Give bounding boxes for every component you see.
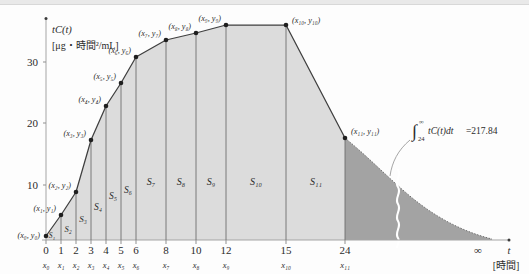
x-tick-symbol: x₄ — [102, 260, 110, 270]
area-label: S₁ — [49, 231, 56, 240]
y-tick-label-30: 30 — [27, 56, 39, 68]
area-label: S₈ — [177, 176, 186, 187]
integral-integrand: tC(t)dt — [428, 126, 454, 137]
x-axis-arrow-dot — [508, 239, 511, 242]
data-point — [284, 23, 289, 28]
data-point — [74, 190, 79, 195]
area-label: S₇ — [147, 176, 156, 187]
point-label: (x₅, y₅) — [93, 72, 116, 81]
y-tick-label-10: 10 — [27, 179, 39, 191]
area-label: S₁₁ — [310, 176, 322, 187]
integral-value: =217.84 — [466, 126, 498, 136]
x-tick-symbol: x₀ — [42, 260, 50, 270]
point-label: (x₇, y₇) — [138, 29, 161, 38]
point-label: (x₉, y₉) — [198, 14, 221, 23]
x-axis-unit: [時間] — [493, 260, 520, 271]
figure-root: tC(t) [μg・時間²/mL] 10 20 30 0 1 2 3 4 5 6… — [0, 0, 529, 274]
data-point — [59, 213, 64, 218]
x-tick-label: 12 — [221, 244, 232, 256]
x-tick-label: 4 — [103, 244, 109, 256]
x-tick-label: 5 — [118, 244, 124, 256]
x-tick-symbol: x₉ — [222, 260, 230, 270]
x-tick-symbol: x₁ — [57, 260, 65, 270]
x-axis-title: t — [508, 245, 512, 256]
point-label: (x₀, y₀) — [17, 231, 40, 240]
tail-fill-dark — [345, 138, 492, 240]
data-point — [134, 55, 139, 60]
x-tick-symbols: x₀ x₁ x₂ x₃ x₄ x₅ x₆ x₇ x₈ x₉ x₁₀ x₁₁ — [42, 260, 350, 270]
integral-annotation-group: ∫ ∞ 24 tC(t)dt =217.84 — [390, 118, 498, 176]
point-label: (x₈, y₈) — [168, 22, 191, 31]
area-label: S₃ — [79, 214, 87, 224]
data-point — [44, 234, 49, 239]
point-label: (x₃, y₃) — [63, 129, 86, 138]
x-tick-symbol: x₁₁ — [339, 260, 350, 270]
x-tick-symbol: x₃ — [87, 260, 95, 270]
point-label: (x₆, y₆) — [108, 46, 131, 55]
x-tick-label: 0 — [43, 244, 49, 256]
point-label: (x₄, y₄) — [78, 95, 101, 104]
area-label: S₄ — [94, 202, 102, 212]
data-point — [164, 38, 169, 43]
x-tick-label: 8 — [163, 244, 169, 256]
x-tick-label: 1 — [58, 244, 64, 256]
x-tick-symbol: x₂ — [72, 260, 80, 270]
x-tick-label: 6 — [133, 244, 139, 256]
point-label: (x₁₁, y₁₁) — [351, 127, 379, 136]
x-tick-symbol: x₁₀ — [280, 260, 291, 270]
data-point — [89, 138, 94, 143]
y-axis-title: tC(t) — [52, 24, 72, 36]
integral-sign-glyph: ∫ — [411, 121, 418, 142]
x-tick-symbol: x₅ — [117, 260, 125, 270]
x-tick-symbol: x₆ — [132, 260, 140, 270]
integral-upper-limit: ∞ — [419, 118, 424, 125]
x-tick-label: 10 — [191, 244, 203, 256]
chart-canvas: tC(t) [μg・時間²/mL] 10 20 30 0 1 2 3 4 5 6… — [0, 0, 529, 274]
area-label: S₂ — [64, 224, 71, 234]
y-axis-arrow-dot — [45, 17, 48, 20]
annotation-leader-line — [390, 140, 410, 176]
y-tick-label-20: 20 — [27, 117, 39, 129]
point-label: (x₁₀, y₁₀) — [292, 16, 320, 25]
area-label: S₉ — [207, 176, 216, 187]
x-tick-label: 15 — [281, 244, 293, 256]
point-label: (x₂, y₂) — [48, 181, 71, 190]
area-label: S₅ — [109, 191, 117, 201]
tail-area-group — [345, 138, 492, 240]
point-label: (x₁, y₁) — [33, 204, 56, 213]
x-tick-symbol: x₈ — [192, 260, 200, 270]
x-axis-infinity-label: ∞ — [474, 244, 482, 256]
data-point — [343, 136, 348, 141]
area-label: S₆ — [124, 185, 132, 195]
integral-lower-limit: 24 — [418, 135, 425, 142]
x-tick-label: 24 — [340, 244, 352, 256]
data-point — [104, 104, 109, 109]
x-tick-symbol: x₇ — [162, 260, 170, 270]
data-point — [194, 31, 199, 36]
data-point — [224, 23, 229, 28]
area-label: S₁₀ — [250, 176, 262, 187]
data-point — [119, 81, 124, 86]
x-tick-label: 2 — [73, 244, 79, 256]
x-tick-label: 3 — [88, 244, 94, 256]
x-tick-labels: 0 1 2 3 4 5 6 8 10 12 15 24 — [43, 244, 351, 256]
